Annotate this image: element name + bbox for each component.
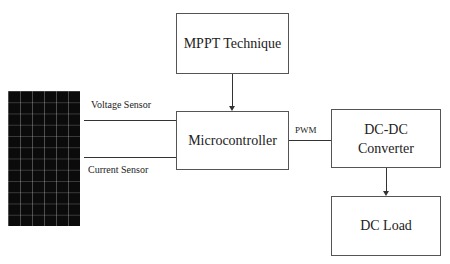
arrow-down-icon — [229, 106, 235, 111]
voltage-sensor-line — [84, 120, 176, 121]
converter-to-load-line — [386, 168, 387, 191]
voltage-sensor-label: Voltage Sensor — [91, 99, 151, 110]
microcontroller-box: Microcontroller — [176, 111, 289, 170]
microcontroller-label: Microcontroller — [188, 133, 277, 149]
dc-dc-converter-box: DC-DC Converter — [331, 109, 441, 168]
pwm-label: PWM — [295, 125, 317, 135]
converter-label: Converter — [358, 139, 414, 158]
current-sensor-line — [84, 157, 176, 158]
dc-dc-label: DC-DC — [364, 120, 408, 139]
dc-load-box: DC Load — [331, 196, 441, 256]
mppt-to-mcu-line — [232, 74, 233, 106]
arrow-down-icon — [383, 191, 389, 196]
current-sensor-label: Current Sensor — [88, 164, 148, 175]
solar-panel — [8, 91, 80, 226]
dc-load-label: DC Load — [360, 218, 412, 234]
mppt-technique-box: MPPT Technique — [176, 13, 289, 74]
pwm-line — [289, 140, 331, 141]
mppt-technique-label: MPPT Technique — [184, 36, 282, 52]
